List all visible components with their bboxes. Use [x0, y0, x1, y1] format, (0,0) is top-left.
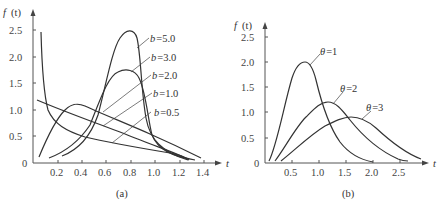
y-axis-arrow-icon	[31, 9, 36, 16]
y-axis-label-a-t: (t)	[11, 7, 21, 19]
label-theta-1: θ=1	[320, 46, 337, 57]
labels-b: θ=1 θ=2 θ=3	[320, 46, 383, 113]
x-tick-a-0.8: 0.8	[123, 167, 136, 178]
x-tick-a-1.2: 1.2	[172, 167, 185, 178]
x-tick-b-2.0: 2.0	[365, 167, 378, 178]
y-ticks-b: 0 0.5 1.0 1.5 2.0 2.5	[241, 32, 268, 169]
x-tick-b-2.5: 2.5	[392, 167, 405, 178]
x-tick-a-0.2: 0.2	[50, 167, 63, 178]
y-axis-arrow-icon	[263, 22, 268, 29]
y-tick-a-2.5: 2.5	[9, 25, 22, 36]
x-axis-label-a: t	[226, 158, 230, 169]
y-tick-a-2.0: 2.0	[9, 52, 22, 63]
y-tick-b-1.5: 1.5	[241, 82, 254, 93]
y-axis-label-b-f: f	[234, 20, 239, 31]
x-axis-label-b: t	[433, 158, 437, 169]
x-tick-a-1.4: 1.4	[196, 167, 210, 178]
label-b-2.0: b=2.0	[152, 70, 177, 81]
labels-a: b=5.0 b=3.0 b=2.0 b=1.0 b=0.5	[150, 33, 179, 118]
curve-theta-3	[281, 117, 421, 161]
label-b-0.5: b=0.5	[154, 107, 179, 118]
y-tick-b-1.0: 1.0	[241, 107, 254, 118]
x-tick-a-1.0: 1.0	[147, 167, 160, 178]
chart-b: f (t) t 0 0.5 1.0 1.5 2.0 2.5 0.5 1.	[234, 20, 437, 200]
label-b-5.0: b=5.0	[150, 33, 175, 44]
chart-a: f (t) t 0 0.5 1.0 1.5 2.0 2.5	[3, 7, 230, 200]
x-tick-b-0.5: 0.5	[284, 167, 297, 178]
label-theta-3: θ=3	[366, 102, 383, 113]
x-axis-arrow-icon	[422, 161, 429, 166]
y-tick-b-2.0: 2.0	[241, 57, 254, 68]
y-tick-a-0: 0	[22, 158, 27, 169]
x-tick-a-0.4: 0.4	[74, 167, 88, 178]
label-b-3.0: b=3.0	[151, 52, 176, 63]
x-tick-b-1.0: 1.0	[311, 167, 324, 178]
caption-a: (a)	[116, 188, 128, 200]
caption-b: (b)	[342, 188, 355, 200]
y-tick-a-1.5: 1.5	[9, 78, 22, 89]
y-axis-label-b-t: (t)	[242, 20, 252, 32]
x-tick-b-1.5: 1.5	[338, 167, 351, 178]
y-ticks-a: 0 0.5 1.0 1.5 2.0 2.5	[9, 25, 36, 169]
y-axis-label-a-f: f	[3, 7, 8, 18]
y-tick-b-0.5: 0.5	[241, 133, 254, 144]
curve-theta-2	[275, 102, 408, 161]
figure: f (t) t 0 0.5 1.0 1.5 2.0 2.5	[0, 0, 444, 209]
y-tick-b-2.5: 2.5	[241, 32, 254, 43]
y-tick-a-1.0: 1.0	[9, 105, 22, 116]
y-tick-a-0.5: 0.5	[9, 131, 22, 142]
x-tick-a-0.6: 0.6	[98, 167, 111, 178]
x-axis-arrow-icon	[215, 161, 222, 166]
leaders-a	[103, 38, 152, 143]
label-theta-2: θ=2	[340, 83, 357, 94]
y-tick-b-0: 0	[254, 158, 259, 169]
label-b-1.0: b=1.0	[153, 88, 178, 99]
